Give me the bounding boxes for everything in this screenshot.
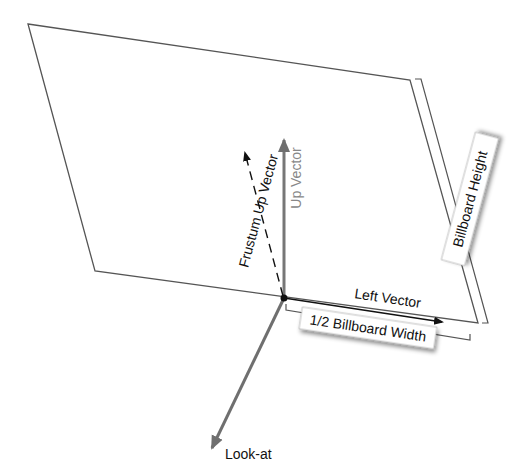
origin-point <box>281 295 288 302</box>
frustum-up-vector-label: Frustum Up Vector <box>235 152 281 269</box>
diagram-canvas: Frustum Up Vector Up Vector Left Vector … <box>0 0 513 476</box>
billboard-quad <box>28 24 478 323</box>
frustum-up-vector-label-group: Frustum Up Vector <box>235 152 281 269</box>
billboard-diagram: Frustum Up Vector Up Vector Left Vector … <box>0 0 513 476</box>
look-at-label: Look-at <box>225 446 272 462</box>
up-vector-label: Up Vector <box>288 147 304 209</box>
up-vector-label-group: Up Vector <box>288 147 304 209</box>
billboard-height-label-box: Billboard Height <box>441 132 498 266</box>
look-at-arrow <box>212 298 284 448</box>
half-billboard-width-label-box: 1/2 Billboard Width <box>299 307 437 349</box>
